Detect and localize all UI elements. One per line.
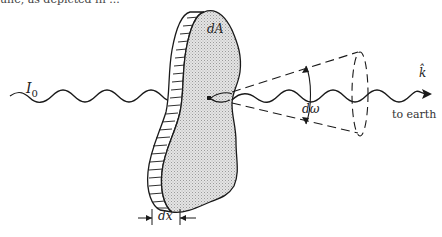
arc-arrow-bottom xyxy=(302,117,309,124)
k-arrowhead xyxy=(422,89,432,99)
direction-vector-label: k̂ xyxy=(419,66,426,80)
incident-intensity-label: I0 xyxy=(26,80,38,99)
cone-upper-edge xyxy=(232,52,358,92)
dx-left-arrowhead xyxy=(146,215,152,221)
dx-right-arrowhead xyxy=(180,215,186,221)
solid-angle-label: dω xyxy=(302,102,319,116)
diagram-canvas: une, as depicted in ... xyxy=(0,0,442,237)
cone-lower-edge xyxy=(232,103,358,133)
to-earth-label: to earth xyxy=(392,108,436,121)
thickness-label: dx xyxy=(158,209,172,223)
intensity-subscript: 0 xyxy=(32,88,38,99)
emission-point xyxy=(207,96,211,100)
cone-base-ellipse xyxy=(352,52,368,136)
area-element-label: dA xyxy=(207,22,223,36)
outgoing-wave xyxy=(232,90,426,102)
